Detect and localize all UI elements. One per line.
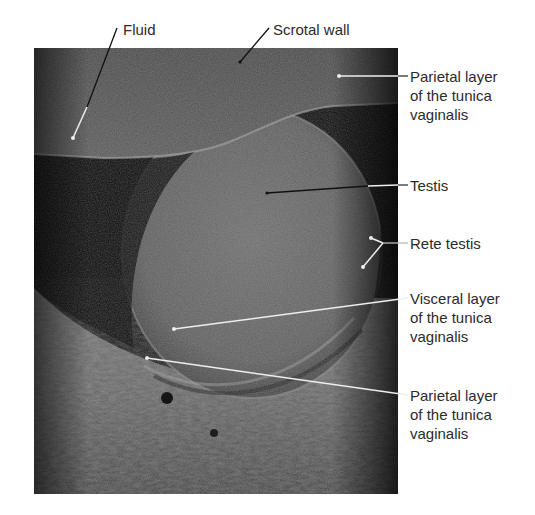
label-line: of the tunica	[410, 405, 498, 424]
label-line: vaginalis	[410, 424, 498, 443]
label-line: of the tunica	[410, 86, 498, 105]
label-visceral-layer: Visceral layer of the tunica vaginalis	[410, 289, 500, 346]
ultrasound-image	[34, 48, 398, 494]
label-line: vaginalis	[410, 105, 498, 124]
label-line: Parietal layer	[410, 67, 498, 86]
label-line: vaginalis	[410, 327, 500, 346]
label-line: Parietal layer	[410, 386, 498, 405]
label-parietal-layer-top: Parietal layer of the tunica vaginalis	[410, 67, 498, 124]
label-rete-testis: Rete testis	[410, 234, 481, 253]
label-scrotal-wall: Scrotal wall	[273, 20, 350, 39]
label-line: Visceral layer	[410, 289, 500, 308]
label-testis: Testis	[410, 176, 448, 195]
label-parietal-layer-bottom: Parietal layer of the tunica vaginalis	[410, 386, 498, 443]
label-line: of the tunica	[410, 308, 500, 327]
label-fluid: Fluid	[123, 20, 156, 39]
